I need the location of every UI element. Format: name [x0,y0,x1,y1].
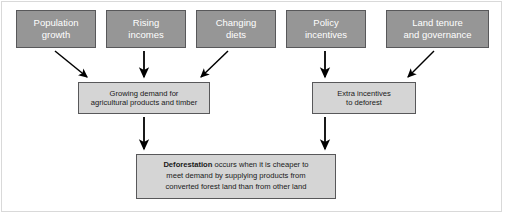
node-growing-demand-label: Growing demand for agricultural products… [88,89,200,108]
deforestation-line2: meet demand by supplying products from [166,171,305,180]
node-deforestation: Deforestation occurs when it is cheaper … [136,154,336,199]
arrow-tenure-to-incentives [408,51,434,77]
arrow-diets-to-demand [201,51,228,77]
deforestation-bold-term: Deforestation [163,160,212,169]
deforestation-line3: converted forest land than from other la… [165,182,306,191]
node-extra-incentives-label: Extra incentives to deforest [334,89,394,108]
node-population-growth: Population growth [16,10,96,48]
node-extra-incentives: Extra incentives to deforest [312,82,416,114]
node-policy-incentives-label: Policy incentives [302,17,350,40]
node-land-tenure-and-governance-label: Land tenure and governance [400,17,474,40]
node-policy-incentives: Policy incentives [286,10,366,48]
deforestation-flow-diagram: Population growth Rising incomes Changin… [0,0,505,215]
node-population-growth-label: Population growth [31,17,82,40]
arrow-population-to-demand [55,51,87,77]
node-growing-demand: Growing demand for agricultural products… [78,82,210,114]
node-deforestation-label: Deforestation occurs when it is cheaper … [160,160,311,192]
node-land-tenure-and-governance: Land tenure and governance [386,10,489,48]
node-rising-incomes: Rising incomes [106,10,186,48]
deforestation-line1-rest: occurs when it is cheaper to [212,160,308,169]
node-changing-diets: Changing diets [196,10,276,48]
node-rising-incomes-label: Rising incomes [125,17,166,40]
node-changing-diets-label: Changing diets [213,17,260,40]
